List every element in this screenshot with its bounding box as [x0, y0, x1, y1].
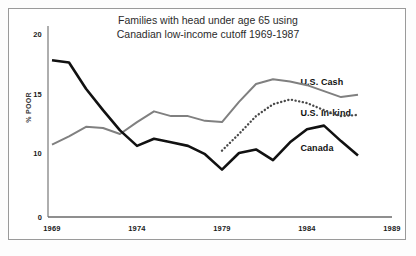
chart-root: Families with head under age 65 using Ca… — [0, 0, 416, 256]
plot-area: Families with head under age 65 using Ca… — [0, 0, 416, 256]
chart-series — [52, 60, 358, 169]
series-line-u-s-cash — [52, 79, 358, 144]
chart-svg — [0, 0, 416, 256]
series-line-canada — [52, 60, 358, 169]
